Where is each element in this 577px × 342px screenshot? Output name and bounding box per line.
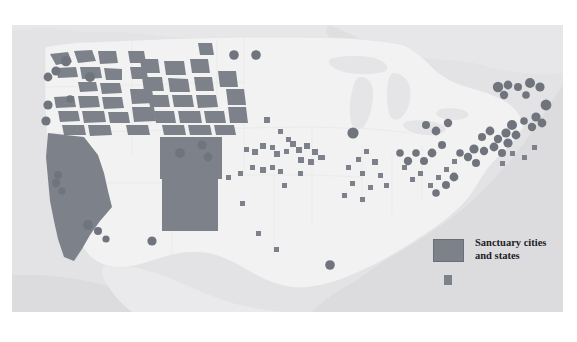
- map-figure: Sanctuary cities and states: [0, 0, 577, 342]
- legend-label: Sanctuary cities and states: [475, 236, 546, 262]
- legend-label-line1: Sanctuary cities: [475, 236, 546, 249]
- map-panel: [12, 25, 563, 312]
- legend-label-line2: and states: [475, 249, 546, 262]
- region-florida-block: [444, 275, 452, 285]
- top-crop-sliver: [0, 0, 577, 24]
- legend-swatch-sanctuary: [433, 239, 464, 262]
- us-map-svg: [12, 25, 563, 312]
- map-legend: Sanctuary cities and states: [433, 236, 546, 262]
- region-new-mexico: [162, 179, 218, 231]
